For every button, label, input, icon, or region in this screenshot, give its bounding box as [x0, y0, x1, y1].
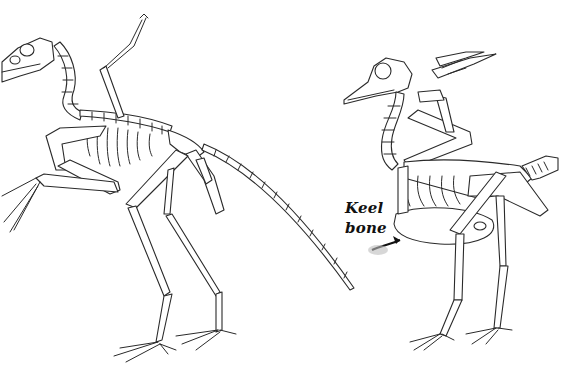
bird-skeleton: [0, 0, 582, 378]
skeleton-comparison-figure: Keel bone: [0, 0, 582, 378]
keel-label-line1: Keel: [345, 198, 387, 218]
keel-bone-label: Keel bone: [345, 198, 387, 238]
keel-label-line2: bone: [345, 218, 387, 238]
